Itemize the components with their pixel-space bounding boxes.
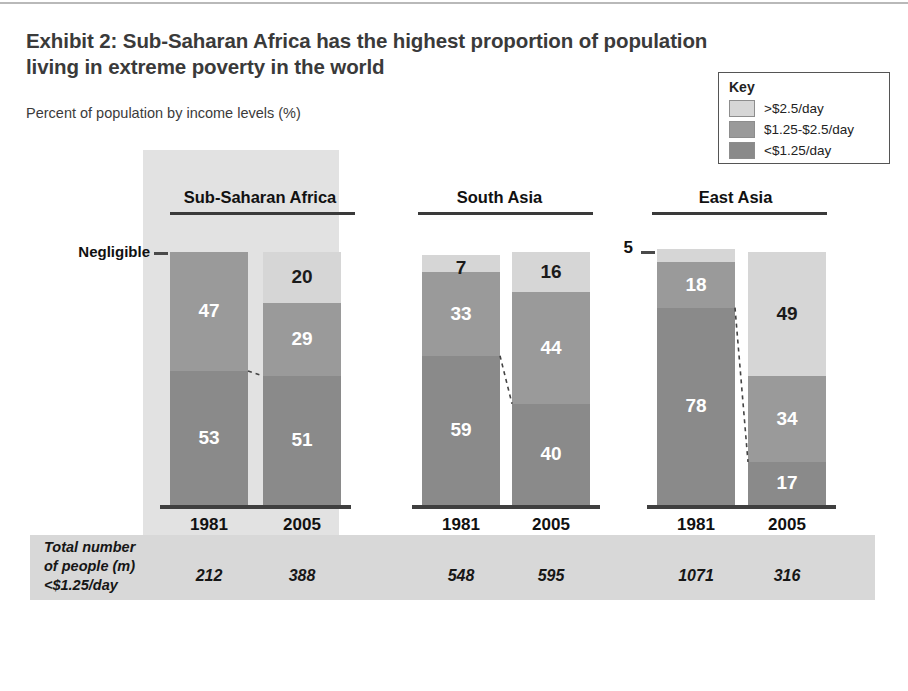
x-axis-year-label: 2005 — [500, 515, 602, 535]
segment-value-label: 49 — [748, 303, 826, 325]
bar-segment[interactable]: 17 — [748, 462, 826, 505]
x-axis-year-label: 2005 — [251, 515, 353, 535]
x-axis-year-label: 1981 — [410, 515, 512, 535]
segment-value-label: 17 — [748, 472, 826, 494]
bar-segment[interactable] — [657, 249, 735, 262]
bar-segment[interactable]: 20 — [263, 252, 341, 303]
annotation-tick — [641, 251, 655, 254]
group-rule — [652, 212, 827, 215]
bar-segment[interactable]: 33 — [422, 272, 500, 355]
bar-segment[interactable]: 34 — [748, 376, 826, 462]
footer-label-line1: Total number — [44, 538, 194, 557]
bar-top-annotation: Negligible — [30, 243, 150, 260]
exhibit-chart: Exhibit 2: Sub-Saharan Africa has the hi… — [0, 0, 908, 691]
x-axis-year-label: 1981 — [645, 515, 747, 535]
group-header-sub-saharan-africa: Sub-Saharan Africa — [165, 188, 355, 207]
x-axis-year-label: 1981 — [158, 515, 260, 535]
bar-segment[interactable]: 40 — [512, 404, 590, 505]
segment-value-label: 34 — [748, 408, 826, 430]
group-header-south-asia: South Asia — [412, 188, 587, 207]
bar-top-annotation: 5 — [607, 238, 633, 258]
segment-value-label: 78 — [657, 395, 735, 417]
bar-segment[interactable]: 7 — [422, 255, 500, 273]
segment-value-label: 20 — [263, 266, 341, 288]
bar-segment[interactable]: 59 — [422, 356, 500, 505]
bar-segment[interactable]: 47 — [170, 252, 248, 371]
group-rule — [418, 212, 593, 215]
annotation-tick — [154, 252, 168, 255]
bar-segment[interactable]: 29 — [263, 303, 341, 376]
footer-value: 548 — [410, 567, 512, 585]
footer-value: 595 — [500, 567, 602, 585]
segment-value-label: 59 — [422, 419, 500, 441]
segment-value-label: 16 — [512, 261, 590, 283]
group-header-east-asia: East Asia — [648, 188, 823, 207]
bar-segment[interactable]: 49 — [748, 252, 826, 376]
segment-value-label: 40 — [512, 443, 590, 465]
segment-value-label: 47 — [170, 300, 248, 322]
footer-value: 212 — [158, 567, 260, 585]
axis-baseline — [647, 505, 836, 509]
bar-segment[interactable]: 51 — [263, 376, 341, 505]
group-rule — [170, 212, 355, 215]
segment-value-label: 29 — [263, 328, 341, 350]
segment-value-label: 7 — [422, 257, 500, 279]
footer-value: 1071 — [645, 567, 747, 585]
axis-baseline — [160, 505, 351, 509]
x-axis-year-label: 2005 — [736, 515, 838, 535]
bar-segment[interactable]: 18 — [657, 262, 735, 308]
footer-value: 316 — [736, 567, 838, 585]
axis-baseline — [412, 505, 600, 509]
segment-value-label: 33 — [422, 303, 500, 325]
segment-value-label: 44 — [512, 337, 590, 359]
bar-segment[interactable]: 78 — [657, 308, 735, 505]
segment-value-label: 51 — [263, 429, 341, 451]
footer-value: 388 — [251, 567, 353, 585]
segment-value-label: 53 — [170, 427, 248, 449]
bar-segment[interactable]: 16 — [512, 252, 590, 292]
bar-segment[interactable]: 53 — [170, 371, 248, 505]
segment-value-label: 18 — [657, 274, 735, 296]
bar-segment[interactable]: 44 — [512, 292, 590, 403]
